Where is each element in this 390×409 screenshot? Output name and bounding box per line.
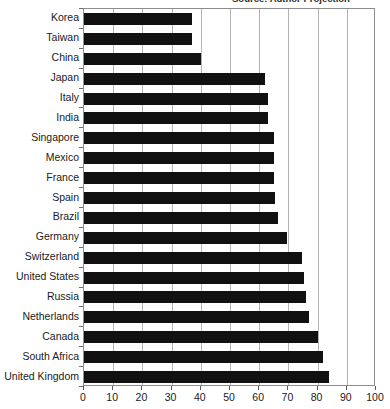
bar [84,73,265,85]
y-axis-tick [79,306,83,307]
category-label-china: China [0,52,79,63]
y-axis-tick [79,247,83,248]
x-axis-tick-label-70: 70 [272,391,302,403]
x-axis-tick-label-20: 20 [126,391,156,403]
x-axis-tick-label-40: 40 [185,391,215,403]
bar [84,272,304,284]
bar [84,212,278,224]
bar [84,351,323,363]
category-label-japan: Japan [0,72,79,83]
chart-title-text: Source: Author Projection [232,0,350,4]
x-axis-tick-label-100: 100 [360,391,390,403]
x-axis-tick [375,386,376,390]
y-axis-tick [79,207,83,208]
x-axis-tick [317,386,318,390]
bar [84,13,192,25]
category-label-russia: Russia [0,291,79,302]
bar [84,172,274,184]
y-axis-tick [79,386,83,387]
x-axis-tick-label-80: 80 [302,391,332,403]
y-axis-tick [79,88,83,89]
y-axis-tick [79,267,83,268]
bar [84,93,268,105]
bar [84,232,287,244]
category-label-united-states: United States [0,271,79,282]
bar-chart: Source: Author Projection KoreaTaiwanChi… [0,0,390,409]
category-label-switzerland: Switzerland [0,251,79,262]
y-axis-tick [79,147,83,148]
x-axis-tick [200,386,201,390]
x-axis-tick-label-90: 90 [331,391,361,403]
bar [84,331,318,343]
x-axis-tick [112,386,113,390]
x-axis-tick [346,386,347,390]
gridline [288,9,289,385]
y-axis-tick [79,187,83,188]
y-axis-tick [79,68,83,69]
category-label-netherlands: Netherlands [0,311,79,322]
x-axis-tick-label-50: 50 [214,391,244,403]
category-label-mexico: Mexico [0,152,79,163]
y-axis-tick [79,167,83,168]
y-axis-tick [79,8,83,9]
bar [84,252,302,264]
y-axis-tick [79,366,83,367]
category-label-taiwan: Taiwan [0,32,79,43]
bar [84,192,275,204]
bar [84,311,309,323]
x-axis-tick-label-0: 0 [68,391,98,403]
category-label-korea: Korea [0,12,79,23]
x-axis-tick-label-30: 30 [156,391,186,403]
bar [84,33,192,45]
category-label-italy: Italy [0,92,79,103]
x-axis-tick [258,386,259,390]
x-axis-tick [83,386,84,390]
category-label-brazil: Brazil [0,211,79,222]
plot-area [83,8,375,386]
gridline [347,9,348,385]
x-axis-tick-label-10: 10 [97,391,127,403]
x-axis-tick-label-60: 60 [243,391,273,403]
y-axis-tick [79,28,83,29]
category-axis-labels: KoreaTaiwanChinaJapanItalyIndiaSingapore… [0,8,79,386]
category-label-south-africa: South Africa [0,351,79,362]
x-axis-tick [229,386,230,390]
category-label-canada: Canada [0,331,79,342]
chart-title-clipped: Source: Author Projection [0,0,390,5]
y-axis-tick [79,48,83,49]
bar [84,53,201,65]
x-axis-tick [141,386,142,390]
gridline [318,9,319,385]
bar [84,152,274,164]
x-axis-tick [287,386,288,390]
bar [84,112,268,124]
category-label-singapore: Singapore [0,132,79,143]
bar [84,132,274,144]
bar [84,291,306,303]
category-label-germany: Germany [0,231,79,242]
x-axis-tick [171,386,172,390]
y-axis-tick [79,287,83,288]
y-axis-tick [79,326,83,327]
y-axis-tick [79,127,83,128]
category-label-united-kingdom: United Kingdom [0,371,79,382]
bar [84,371,329,383]
category-label-france: France [0,172,79,183]
category-label-spain: Spain [0,192,79,203]
y-axis-tick [79,346,83,347]
y-axis-tick [79,227,83,228]
y-axis-tick [79,107,83,108]
category-label-india: India [0,112,79,123]
